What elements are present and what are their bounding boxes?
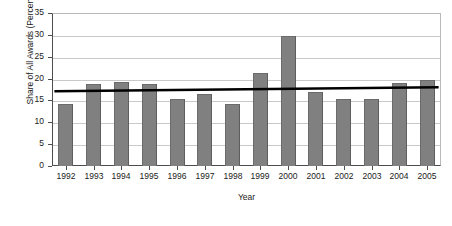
- bar: [114, 82, 129, 166]
- y-axis-tick: 35: [0, 13, 52, 14]
- bar: [225, 104, 240, 166]
- x-tick-mark: [205, 166, 206, 170]
- bar: [336, 99, 351, 166]
- x-tick-mark: [372, 166, 373, 170]
- bar: [281, 36, 296, 166]
- y-tick-label: 25: [35, 52, 44, 61]
- bar-chart: Share of All Awards (Percent) 0510152025…: [0, 0, 452, 226]
- x-tick-mark: [399, 166, 400, 170]
- x-tick-mark: [149, 166, 150, 170]
- bar: [392, 83, 407, 166]
- y-axis-tick: 10: [0, 122, 52, 123]
- bar: [253, 73, 268, 166]
- x-tick-mark: [427, 166, 428, 170]
- y-axis-tick: 25: [0, 57, 52, 58]
- x-tick-mark: [121, 166, 122, 170]
- y-axis-tick: 30: [0, 35, 52, 36]
- y-tick-label: 20: [35, 74, 44, 83]
- y-tick-label: 0: [39, 161, 44, 170]
- bar: [197, 94, 212, 166]
- x-tick-mark: [177, 166, 178, 170]
- bar: [308, 92, 323, 166]
- y-tick-label: 30: [35, 30, 44, 39]
- y-axis-tick: 5: [0, 144, 52, 145]
- y-tick-label: 15: [35, 95, 44, 104]
- bar: [364, 99, 379, 166]
- y-axis-tick: 15: [0, 100, 52, 101]
- bar: [58, 104, 73, 166]
- bar: [420, 80, 435, 166]
- x-tick-mark: [233, 166, 234, 170]
- x-tick-mark: [94, 166, 95, 170]
- y-axis-tick: 20: [0, 79, 52, 80]
- x-tick-mark: [260, 166, 261, 170]
- x-tick-mark: [288, 166, 289, 170]
- y-tick-label: 10: [35, 117, 44, 126]
- bar: [170, 99, 185, 166]
- y-axis-tick: 0: [0, 166, 52, 167]
- x-tick-mark: [316, 166, 317, 170]
- bar: [86, 84, 101, 166]
- x-tick-mark: [66, 166, 67, 170]
- y-tick-label: 35: [35, 8, 44, 17]
- x-tick-label: 2005: [407, 172, 447, 181]
- bar: [142, 84, 157, 166]
- x-axis-title: Year: [52, 192, 441, 202]
- x-tick-mark: [344, 166, 345, 170]
- y-tick-label: 5: [39, 139, 44, 148]
- bars-layer: [52, 13, 441, 166]
